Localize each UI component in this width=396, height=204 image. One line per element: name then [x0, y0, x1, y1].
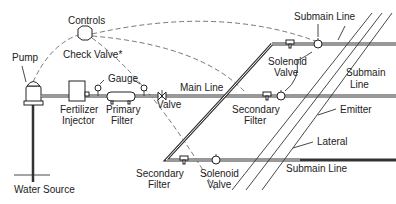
submain-line-bottom-label: Submain Line — [286, 163, 348, 174]
fertilizer-injector-icon — [69, 81, 89, 101]
controls-icon — [78, 26, 92, 40]
lateral-label: Lateral — [317, 136, 348, 147]
fertilizer-injector-label-1: Fertilizer — [60, 104, 99, 115]
submain-line-mid-label-1: Submain — [346, 67, 385, 78]
pump-label: Pump — [12, 52, 39, 63]
secondary-filter-mid-label-2: Filter — [244, 115, 267, 126]
submain-line-mid-label-2: Line — [350, 79, 369, 90]
emitter-label: Emitter — [340, 104, 372, 115]
check-valve-label: Check Valve* — [63, 49, 122, 60]
secondary-filter-bottom-label-1: Secondary — [136, 168, 184, 179]
solenoid-valve-bottom-label-2: Valve — [207, 179, 232, 190]
water-source-label: Water Source — [14, 184, 75, 195]
main-line-label: Main Line — [180, 82, 224, 93]
solenoid-valve-top-label-2: Valve — [274, 67, 299, 78]
controls-label: Controls — [68, 15, 105, 26]
primary-filter-label-2: Filter — [111, 115, 134, 126]
primary-filter-label-1: Primary — [106, 104, 140, 115]
gauge-label: Gauge — [108, 73, 138, 84]
pump-icon — [24, 82, 43, 106]
submain-line-top-label: Submain Line — [294, 11, 356, 22]
fertilizer-injector-label-2: Injector — [62, 115, 95, 126]
primary-filter-icon — [107, 92, 135, 104]
solenoid-valve-top-label-1: Solenoid — [268, 56, 307, 67]
valve-label: Valve — [157, 99, 182, 110]
secondary-filter-mid-label-1: Secondary — [232, 104, 280, 115]
irrigation-diagram: Controls Check Valve* Pump Gauge Main Li… — [0, 0, 396, 204]
solenoid-valve-bottom-label-1: Solenoid — [200, 168, 239, 179]
secondary-filter-bottom-label-2: Filter — [148, 179, 171, 190]
water-source-pipe — [14, 103, 50, 182]
